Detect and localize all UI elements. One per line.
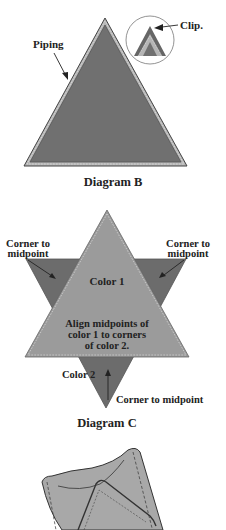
corner-bottom-label: Corner to midpoint: [116, 394, 204, 405]
color1-label: Color 1: [90, 275, 125, 287]
instruction-diagrams: Piping Clip. Diagram B Corner to midpoin…: [0, 0, 226, 530]
diagram-b-caption: Diagram B: [84, 175, 143, 189]
piping-label: Piping: [33, 38, 64, 50]
align-instruction-line2: color 1 to corners: [68, 329, 146, 340]
folded-pocket-illustration: [42, 448, 163, 530]
align-instruction-line1: Align midpoints of: [65, 318, 149, 329]
align-instruction-line3: of color 2.: [85, 340, 130, 351]
color2-label: Color 2: [62, 369, 95, 380]
diagram-b: Piping Clip. Diagram B: [24, 16, 203, 189]
diagram-c-caption: Diagram C: [77, 416, 136, 430]
corner-right-label-line2: midpoint: [168, 248, 209, 259]
pocket-body: [42, 448, 163, 530]
corner-left-label-line2: midpoint: [8, 248, 49, 259]
clip-label: Clip.: [180, 19, 203, 31]
diagram-c: Corner to midpoint Corner to midpoint Co…: [6, 210, 210, 430]
piping-arrow: [54, 53, 66, 76]
piping-arrow-head: [62, 72, 68, 80]
